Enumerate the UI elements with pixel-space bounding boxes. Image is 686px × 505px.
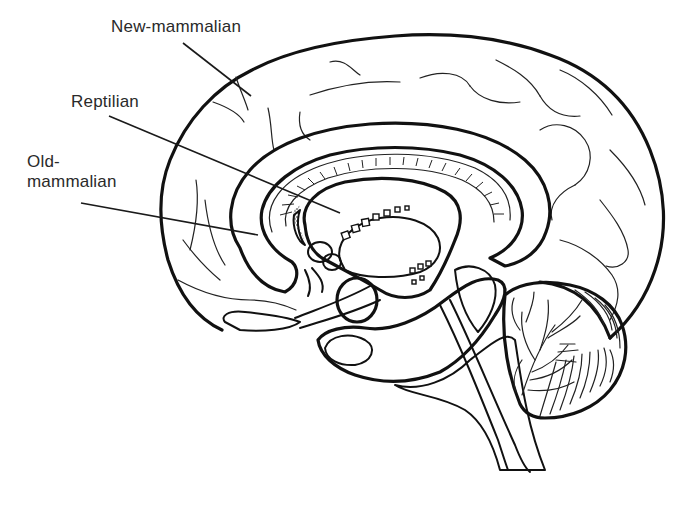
label-reptilian: Reptilian xyxy=(71,92,139,112)
cerebral-cortex-outline xyxy=(161,35,664,338)
brain-diagram: New-mammalian Reptilian Old- mammalian xyxy=(0,0,686,505)
pituitary xyxy=(224,285,380,331)
label-old-mammalian: Old- mammalian xyxy=(27,152,117,192)
thalamus xyxy=(294,178,461,297)
cerebellum xyxy=(504,282,626,418)
label-new-mammalian: New-mammalian xyxy=(111,17,241,37)
brain-illustration xyxy=(0,0,686,505)
limbic-cingulate-band xyxy=(231,123,550,292)
leader-new-mammalian xyxy=(183,43,251,96)
arbor-vitae xyxy=(512,292,582,395)
brainstem xyxy=(318,266,545,472)
